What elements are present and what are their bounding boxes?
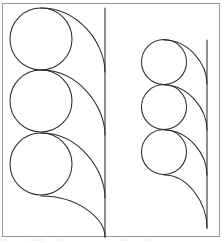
left-arc-1: [41, 8, 105, 72]
left-circle-3: [10, 133, 72, 195]
right-arc-1: [164, 40, 207, 84]
geometric-figure-svg: [0, 0, 224, 243]
caption-text-artifact: [0, 239, 224, 241]
right-circle-group: [142, 40, 208, 229]
right-circle-2: [142, 85, 187, 130]
right-arc-3: [164, 130, 207, 175]
left-arc-4: [41, 196, 105, 237]
right-circle-1: [142, 40, 187, 85]
left-circle-group: [10, 8, 105, 237]
figure-frame-border: [3, 4, 220, 237]
right-arc-2: [164, 85, 207, 130]
figure-container: [0, 0, 224, 243]
left-circle-2: [10, 70, 72, 132]
left-circle-1: [10, 8, 72, 70]
left-arc-3: [41, 133, 105, 198]
right-arc-4: [164, 175, 207, 228]
right-circle-3: [142, 130, 187, 175]
left-arc-2: [41, 70, 105, 135]
